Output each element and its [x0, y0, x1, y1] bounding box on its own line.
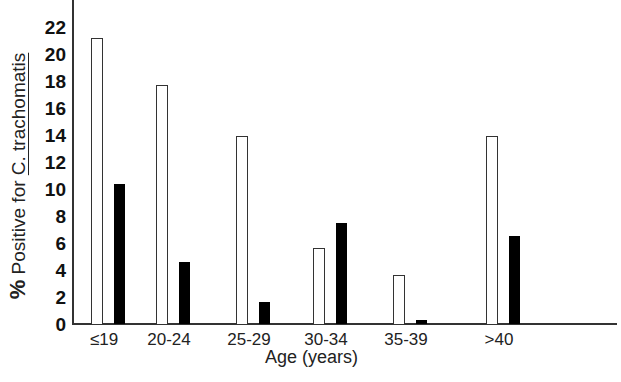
y-axis	[72, 0, 74, 324]
y-tick-label: 4	[36, 261, 66, 281]
bar-filled	[509, 236, 520, 324]
bar-open	[156, 85, 168, 324]
y-axis-label-text: Positive for	[8, 175, 29, 280]
y-axis-label-percent: %	[5, 280, 30, 300]
y-tick-label: 12	[36, 153, 66, 173]
bar-open	[91, 38, 103, 324]
bar-open	[313, 248, 325, 324]
x-tick-label: 20-24	[134, 330, 204, 350]
bar-filled	[336, 223, 347, 324]
y-tick-label: 14	[36, 126, 66, 146]
x-axis-label: Age (years)	[265, 347, 358, 368]
y-tick-label: 16	[36, 99, 66, 119]
x-tick-label: >40	[464, 330, 534, 350]
bar-open	[486, 136, 498, 324]
bar-chart: 0246810121416182022 ≤1920-2425-2930-3435…	[0, 0, 621, 382]
y-tick-label: 8	[36, 207, 66, 227]
y-tick-label: 2	[36, 288, 66, 308]
bar-filled	[114, 184, 125, 324]
x-tick-label: ≤19	[69, 330, 139, 350]
bar-open	[236, 136, 248, 324]
y-tick-label: 0	[36, 315, 66, 335]
x-tick-label: 35-39	[371, 330, 441, 350]
y-axis-label-organism: C. trachomatis	[8, 53, 29, 175]
y-tick-label: 18	[36, 72, 66, 92]
bar-open	[393, 275, 405, 324]
y-tick-label: 22	[36, 18, 66, 38]
bar-filled	[179, 262, 190, 324]
y-axis-label: % Positive for C. trachomatis	[5, 53, 31, 300]
y-tick-label: 6	[36, 234, 66, 254]
y-tick-label: 20	[36, 45, 66, 65]
bar-filled	[259, 302, 270, 324]
y-tick-label: 10	[36, 180, 66, 200]
bar-filled	[416, 320, 427, 324]
